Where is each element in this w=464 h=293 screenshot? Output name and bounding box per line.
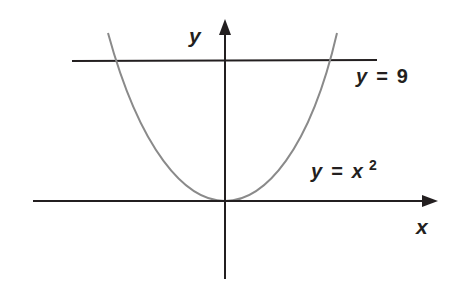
- x-axis-arrow-icon: [422, 195, 438, 207]
- label-parabola-lhs: y: [310, 160, 323, 182]
- parabola-curve: [108, 33, 337, 201]
- label-y-equals-x-squared: y = x 2: [310, 157, 377, 182]
- label-parabola-exponent: 2: [369, 157, 377, 173]
- label-y9-eq: =: [376, 65, 388, 87]
- graph-canvas: y x y = 9 y = x 2: [0, 0, 464, 293]
- label-y9-rhs: 9: [397, 65, 408, 87]
- label-y-equals-9: y = 9: [355, 65, 408, 87]
- label-parabola-eq: =: [331, 160, 343, 182]
- label-y9-lhs: y: [355, 65, 368, 87]
- y-axis-label: y: [188, 24, 202, 47]
- x-axis-label: x: [415, 215, 429, 238]
- label-parabola-base: x: [351, 160, 364, 182]
- graph-svg: y x y = 9 y = x 2: [0, 0, 464, 293]
- y-axis-arrow-icon: [219, 19, 231, 35]
